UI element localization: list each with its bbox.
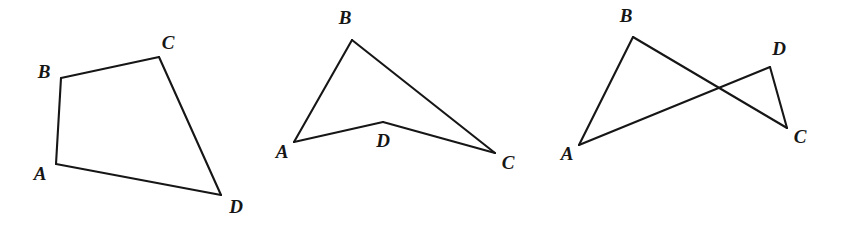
edge-AB — [56, 78, 61, 164]
edge-DA — [56, 164, 221, 195]
crossed-quadrilateral — [579, 37, 787, 145]
vertex-label-b: B — [620, 6, 633, 25]
geometry-diagram-board: ABCDABCDABCD — [0, 0, 844, 228]
edge-DA — [294, 122, 383, 142]
edge-BC — [352, 40, 495, 153]
vertex-label-b: B — [38, 62, 51, 81]
vertex-label-a: A — [561, 144, 574, 163]
edge-BC — [61, 57, 159, 78]
vertex-label-c: C — [502, 153, 515, 172]
vertex-label-d: D — [229, 197, 243, 216]
vertex-label-d: D — [772, 39, 786, 58]
quadrilaterals-svg — [0, 0, 844, 228]
vertex-label-d: D — [376, 131, 390, 150]
edge-DA — [579, 67, 770, 145]
edge-AB — [294, 40, 352, 142]
vertex-label-a: A — [276, 142, 289, 161]
vertex-label-c: C — [162, 33, 175, 52]
edge-layer — [56, 37, 787, 195]
edge-AB — [579, 37, 633, 145]
concave-quadrilateral — [294, 40, 495, 153]
vertex-label-a: A — [34, 164, 47, 183]
vertex-label-c: C — [794, 127, 807, 146]
edge-CD — [159, 57, 221, 195]
convex-quadrilateral — [56, 57, 221, 195]
vertex-label-b: B — [339, 8, 352, 27]
edge-CD — [383, 122, 495, 153]
